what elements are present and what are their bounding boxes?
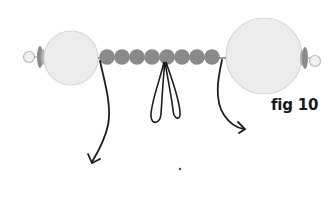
small-beads-strand xyxy=(99,49,220,65)
left-large-bead xyxy=(44,31,98,85)
right-large-bead xyxy=(226,18,302,94)
cord-loops xyxy=(151,62,180,122)
stray-dot xyxy=(179,168,182,171)
beading-diagram: fig 10 xyxy=(0,0,334,202)
figure-label: fig 10 xyxy=(271,96,318,114)
